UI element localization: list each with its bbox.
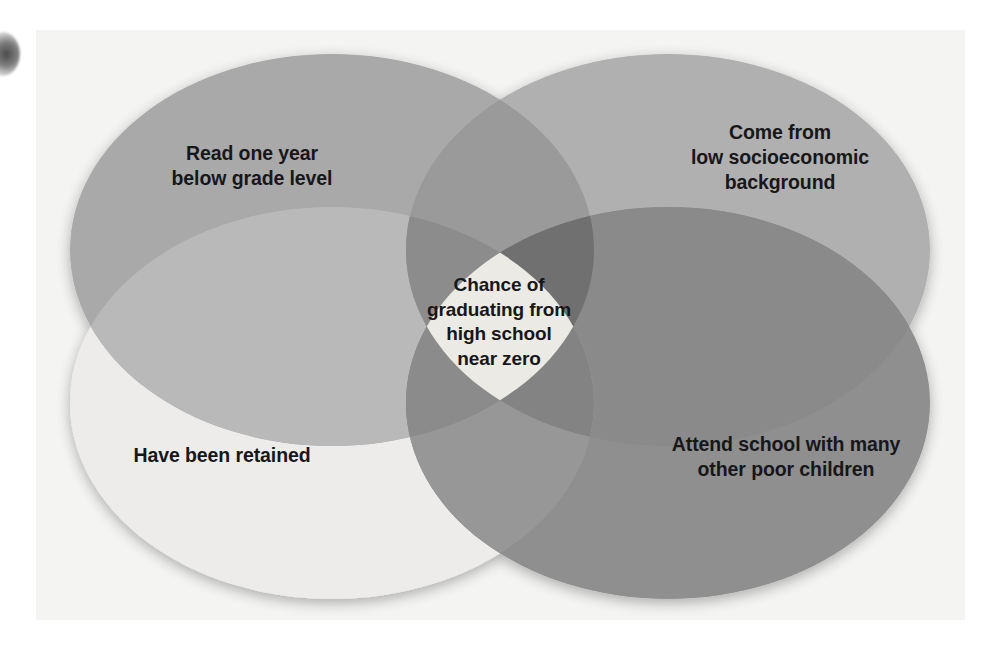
venn-diagram-graphic xyxy=(0,0,1002,653)
figure-stage: Read one year below grade level Come fro… xyxy=(0,0,1002,653)
